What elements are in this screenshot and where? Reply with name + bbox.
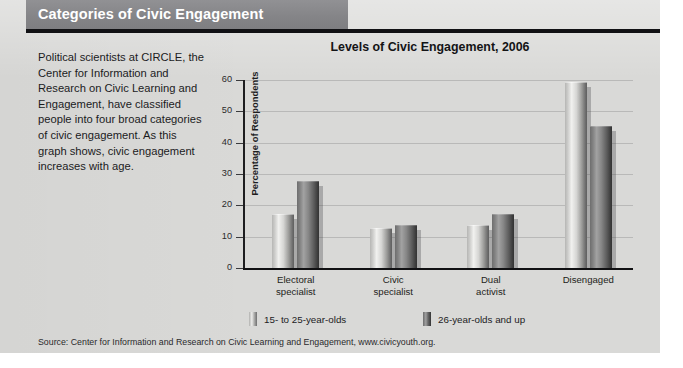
bar-dual-activist-series-2[interactable] [492,214,514,268]
x-label-disengaged: Disengaged [540,274,638,286]
x-label-dual-activist: Dual activist [442,274,540,297]
y-tick-label-20: 20 [222,199,232,209]
bar-electoral-specialist-series-2[interactable] [297,181,319,268]
y-tick-label-30: 30 [222,168,232,178]
figure-panel: Categories of Civic Engagement Political… [0,0,660,353]
y-tick-40: 40 [236,143,243,144]
x-label-civic-specialist: Civic specialist [345,274,443,297]
header-divider [26,29,660,33]
legend-swatch-icon-1 [249,312,257,326]
legend-swatch-icon-2 [423,312,431,326]
y-tick-label-60: 60 [222,74,232,84]
legend-item-1[interactable]: 15- to 25-year-olds [249,312,346,326]
y-tick-50: 50 [236,111,243,112]
bar-dual-activist-series-1[interactable] [467,225,489,268]
plot-area: Percentage of Respondents 0102030405060 … [243,76,635,312]
intro-text-block: Political scientists at CIRCLE, the Cent… [38,50,206,175]
y-tick-20: 20 [236,205,243,206]
source-note: Source: Center for Information and Resea… [38,337,436,347]
y-tick-label-50: 50 [222,105,232,115]
bar-civic-specialist-series-1[interactable] [370,228,392,268]
gridline-60 [245,80,633,81]
chart-container: Levels of Civic Engagement, 2006 Percent… [210,36,650,336]
x-axis-line [243,268,633,270]
y-tick-10: 10 [236,237,243,238]
y-axis-line [243,80,245,270]
intro-paragraph: Political scientists at CIRCLE, the Cent… [38,50,206,175]
y-tick-60: 60 [236,80,243,81]
legend-label-2: 26-year-olds and up [438,314,525,325]
bar-electoral-specialist-series-1[interactable] [272,214,294,268]
chart-legend: 15- to 25-year-olds26-year-olds and up [243,312,635,334]
y-tick-label-40: 40 [222,137,232,147]
bar-civic-specialist-series-2[interactable] [395,225,417,268]
header-banner: Categories of Civic Engagement [26,0,348,29]
bar-disengaged-series-2[interactable] [590,126,612,268]
y-tick-30: 30 [236,174,243,175]
y-tick-label-10: 10 [222,231,232,241]
legend-item-2[interactable]: 26-year-olds and up [423,312,525,326]
chart-title: Levels of Civic Engagement, 2006 [210,40,650,54]
y-tick-label-0: 0 [227,262,232,272]
bar-disengaged-series-1[interactable] [565,82,587,268]
legend-label-1: 15- to 25-year-olds [264,314,346,325]
y-tick-0: 0 [236,268,243,269]
y-axis-label: Percentage of Respondents [249,69,260,199]
x-label-electoral-specialist: Electoral specialist [247,274,345,297]
page-title: Categories of Civic Engagement [38,6,263,22]
